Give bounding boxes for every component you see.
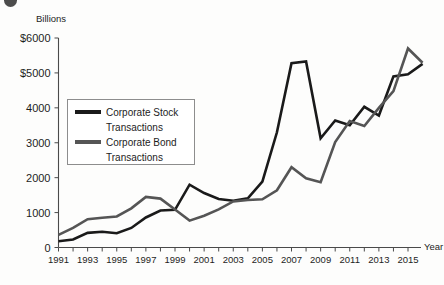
y-tick-label-5000: $5000 — [20, 67, 51, 79]
legend-label-corporate-bond-line1: Corporate Bond — [106, 137, 177, 148]
chart-legend: Corporate Stock Transactions Corporate B… — [68, 100, 195, 165]
x-axis-title: Year — [424, 241, 443, 252]
y-tick-label-1000: 1000 — [26, 207, 50, 219]
legend-label-corporate-stock-line2: Transactions — [106, 122, 163, 133]
line-chart: Billions Year $6000$50004000300020001000… — [0, 0, 444, 285]
x-tick-label-1993: 1993 — [77, 254, 98, 265]
x-tick-label-2003: 2003 — [223, 254, 244, 265]
x-tick-label-1997: 1997 — [135, 254, 156, 265]
y-tick-label-2000: 2000 — [26, 172, 50, 184]
y-tick-label-3000: 3000 — [26, 137, 50, 149]
chart-page: Billions Year $6000$50004000300020001000… — [0, 0, 444, 285]
y-axis-title: Billions — [36, 13, 66, 24]
x-tick-label-2009: 2009 — [310, 254, 331, 265]
y-tick-label-0: 0 — [44, 242, 50, 254]
y-tick-label-4000: 4000 — [26, 102, 50, 114]
x-tick-label-2001: 2001 — [194, 254, 215, 265]
y-tick-label-6000: $6000 — [20, 32, 51, 44]
legend-label-corporate-stock-line1: Corporate Stock — [106, 107, 179, 118]
legend-label-corporate-bond-line2: Transactions — [106, 152, 163, 163]
x-axis-ticks: 1991199319951997199920012003200520072009… — [48, 248, 419, 265]
x-tick-label-2011: 2011 — [340, 254, 360, 265]
x-tick-label-2007: 2007 — [281, 254, 302, 265]
x-tick-label-2015: 2015 — [397, 254, 418, 265]
x-tick-label-2005: 2005 — [252, 254, 273, 265]
x-tick-label-2013: 2013 — [368, 254, 389, 265]
x-tick-label-1991: 1991 — [48, 254, 69, 265]
y-axis-ticks: $6000$500040003000200010000 — [20, 32, 59, 254]
x-tick-label-1995: 1995 — [106, 254, 127, 265]
x-tick-label-1999: 1999 — [164, 254, 185, 265]
